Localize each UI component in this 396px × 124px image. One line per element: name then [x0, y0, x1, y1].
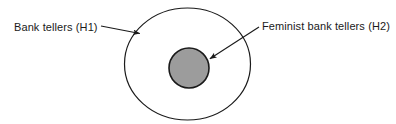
euler-diagram-figure: Bank tellers (H1) Feminist bank tellers …: [0, 0, 396, 124]
inner-set-label: Feminist bank tellers (H2): [262, 20, 390, 32]
inner-set-circle-feminist-bank-tellers: [169, 48, 209, 88]
arrow-to-outer-ellipse-icon: [101, 26, 140, 34]
venn-diagram-canvas: [0, 0, 396, 124]
outer-set-label: Bank tellers (H1): [14, 21, 98, 33]
